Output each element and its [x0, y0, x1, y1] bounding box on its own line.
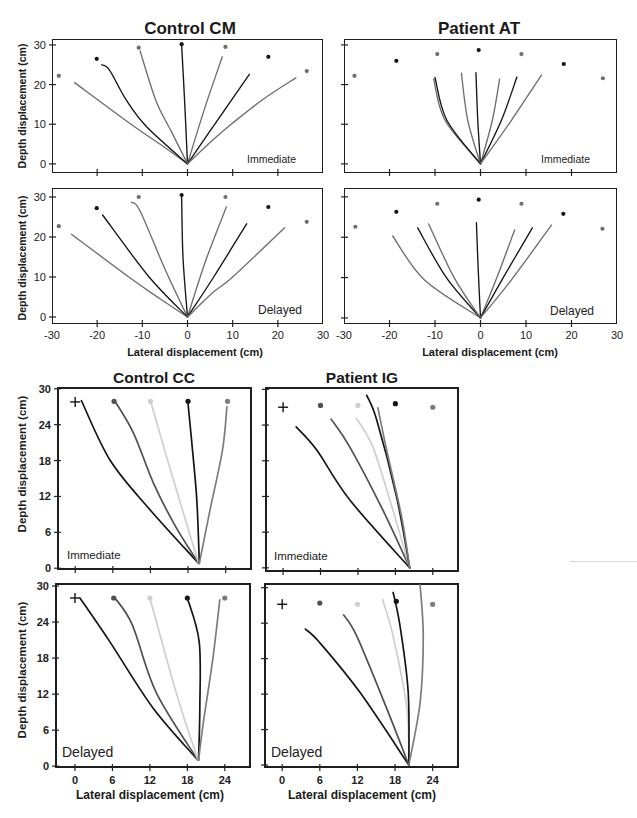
trajectory-line — [150, 401, 198, 564]
trajectory-line — [393, 592, 409, 765]
target-dot-marker — [136, 194, 140, 198]
y-axis-label-delayed-upper: Depth displacement (cm) — [16, 196, 28, 321]
x-tick-label: 20 — [565, 330, 577, 341]
trajectory-line — [480, 229, 514, 317]
target-dot-marker — [394, 599, 399, 604]
x-tick-label: 6 — [317, 775, 323, 786]
y-tick-label: 0 — [45, 563, 51, 574]
trajectory-line — [74, 82, 187, 163]
condition-label: Immediate — [67, 550, 121, 562]
y-axis-label-immediate-upper: Depth displacement (cm) — [16, 44, 28, 169]
y-tick-label: 24 — [37, 617, 49, 628]
y-tick-label: 20 — [34, 79, 46, 90]
y-tick-label: 18 — [39, 455, 51, 466]
condition-label: Immediate — [247, 154, 296, 165]
target-dot-marker — [266, 54, 270, 58]
condition-label: Delayed — [271, 745, 322, 759]
trajectory-line — [150, 598, 198, 760]
x-tick-label: 12 — [144, 775, 156, 786]
panel-control-cc-immediate — [57, 387, 252, 570]
x-tick-label: -10 — [427, 330, 443, 341]
y-axis-label-delayed-lower: Depth displacement (cm) — [16, 602, 28, 739]
panel-patient-ig-immediate — [265, 387, 459, 572]
target-dot-marker — [600, 76, 604, 80]
y-axis-label-immediate-lower: Depth displacement (cm) — [16, 396, 28, 533]
y-tick-label: 0 — [40, 312, 46, 323]
target-plus-marker — [278, 402, 288, 412]
y-tick-label: 30 — [34, 39, 46, 50]
target-dot-marker — [561, 211, 565, 215]
target-dot-marker — [318, 403, 323, 408]
trajectory-line — [187, 207, 226, 317]
target-dot-marker — [223, 44, 227, 48]
panel-control-cc-delayed — [55, 583, 251, 768]
condition-label: Delayed — [258, 304, 302, 316]
condition-label: Delayed — [62, 745, 113, 759]
x-axis-label-patient-ig: Lateral displacement (cm) — [288, 788, 436, 802]
target-dot-marker — [435, 51, 439, 55]
trajectory-line — [81, 401, 198, 564]
plot-area — [55, 583, 251, 768]
target-dot-marker — [111, 595, 116, 600]
plot-area — [265, 387, 459, 572]
x-tick-label: 0 — [184, 330, 190, 341]
trajectory-line — [435, 77, 481, 163]
y-tick-label: 6 — [45, 527, 51, 538]
target-dot-marker — [476, 48, 480, 52]
x-tick-label: -20 — [382, 330, 398, 341]
target-dot-marker — [304, 69, 308, 73]
x-tick-label: 0 — [279, 775, 285, 786]
target-dot-marker — [94, 206, 98, 210]
x-tick-label: 12 — [351, 775, 363, 786]
figure: Control CM Patient AT Depth displacement… — [0, 0, 637, 818]
scan-artifact-line — [570, 561, 637, 562]
plot-area — [264, 583, 459, 768]
target-dot-marker — [222, 595, 227, 600]
x-tick-label: 18 — [389, 775, 401, 786]
x-tick-label: 10 — [227, 330, 239, 341]
trajectory-line — [480, 75, 541, 164]
trajectory-line — [433, 79, 480, 164]
y-tick-label: 30 — [34, 192, 46, 203]
x-tick-label: 0 — [477, 330, 483, 341]
x-tick-label: 30 — [611, 330, 623, 341]
target-dot-marker — [355, 602, 360, 607]
y-tick-label: 24 — [39, 419, 51, 430]
target-dot-marker — [476, 197, 480, 201]
x-tick-label: -20 — [89, 330, 105, 341]
target-dot-marker — [430, 602, 435, 607]
target-dot-marker — [435, 201, 439, 205]
target-plus-marker — [277, 599, 287, 609]
target-dot-marker — [56, 73, 60, 77]
x-tick-label: -30 — [44, 330, 60, 341]
y-tick-label: 12 — [37, 689, 49, 700]
trajectory-line — [480, 227, 532, 317]
y-tick-label: 20 — [34, 232, 46, 243]
target-dot-marker — [136, 45, 140, 49]
panel-patient-ig-delayed — [264, 583, 459, 768]
target-dot-marker — [317, 600, 322, 605]
trajectory-line — [199, 407, 227, 564]
trajectory-line — [428, 223, 480, 317]
target-dot-marker — [352, 73, 356, 77]
x-tick-label: 0 — [72, 775, 78, 786]
title-patient-ig: Patient IG — [326, 369, 398, 387]
y-tick-label: 12 — [39, 491, 51, 502]
trajectory-line — [367, 395, 410, 568]
x-axis-label-control-cc: Lateral displacement (cm) — [76, 788, 224, 802]
condition-label: Immediate — [274, 551, 328, 563]
trajectory-line — [101, 64, 187, 163]
trajectory-line — [480, 225, 551, 318]
target-dot-marker — [56, 224, 60, 228]
x-tick-label: 18 — [181, 775, 193, 786]
y-tick-label: 30 — [37, 581, 49, 592]
x-tick-label: 6 — [109, 775, 115, 786]
title-control-cm: Control CM — [144, 19, 236, 39]
target-dot-marker — [430, 405, 435, 410]
target-dot-marker — [393, 401, 398, 406]
condition-label: Delayed — [550, 305, 594, 317]
x-tick-label: 10 — [520, 330, 532, 341]
target-plus-marker — [70, 397, 80, 407]
y-tick-label: 0 — [40, 158, 46, 169]
x-tick-label: -30 — [336, 330, 352, 341]
